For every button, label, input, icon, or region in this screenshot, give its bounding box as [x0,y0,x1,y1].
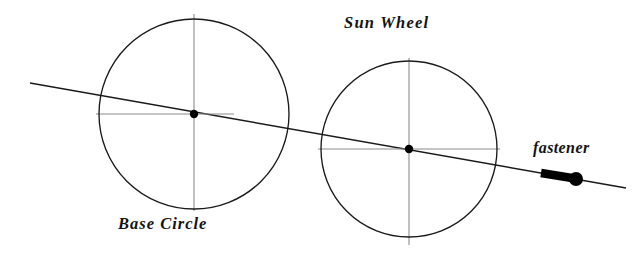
base-circle-center-dot [190,110,198,118]
diagram-canvas: Sun Wheel Base Circle fastener [0,0,633,257]
fastener-label: fastener [533,140,590,156]
gear-train-diagram-svg [0,0,633,257]
sun-wheel-group [318,58,500,245]
fastener-shank [540,169,572,182]
sun-wheel-label: Sun Wheel [344,15,429,32]
sun-wheel-center-dot [405,145,413,153]
fastener-head [569,172,583,186]
base-circle-label: Base Circle [118,216,207,233]
base-circle-group [96,14,289,211]
fastener-symbol [540,169,583,186]
